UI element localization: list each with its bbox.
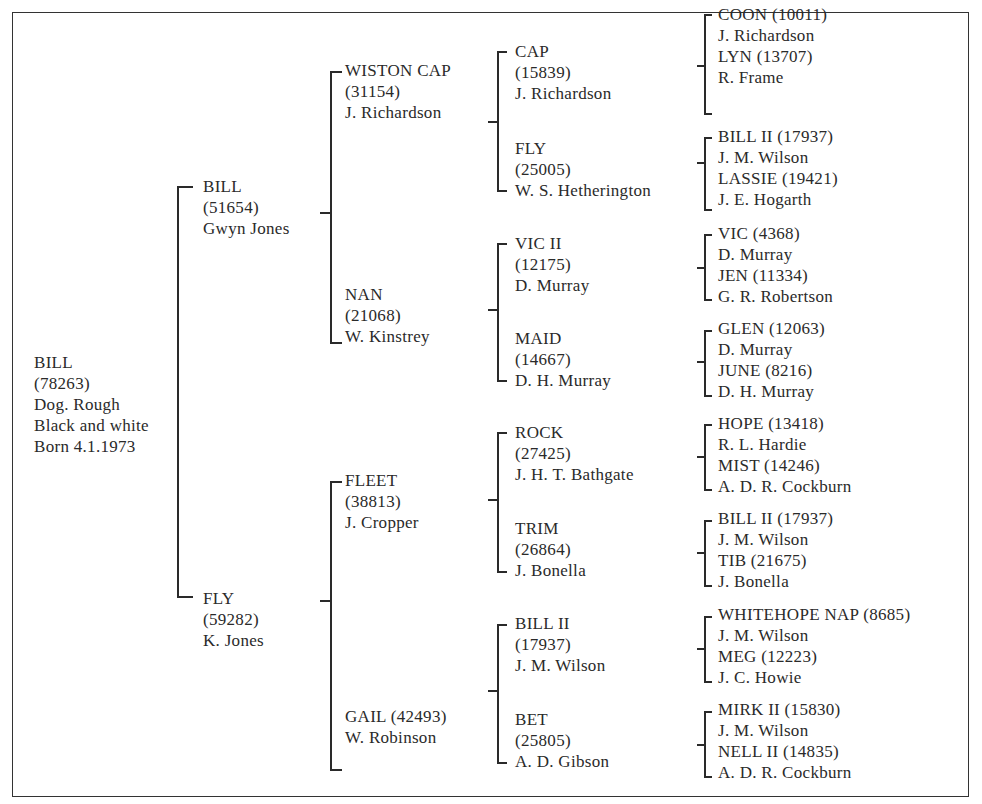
bracket-gen4 xyxy=(704,616,706,682)
gen3-name: WISTON CAP xyxy=(345,60,451,81)
gen4-owner: J. H. T. Bathgate xyxy=(515,464,634,485)
gen4-owner: J. M. Wilson xyxy=(515,655,605,676)
bracket-gen4-top xyxy=(704,137,712,139)
gen5-pair: GLEN (12063) D. Murray JUNE (8216) D. H.… xyxy=(718,318,825,402)
gen5-sire: GLEN (12063) xyxy=(718,318,825,339)
gen4-reg: (12175) xyxy=(515,254,589,275)
bracket-gen4-top xyxy=(704,14,712,16)
bracket-gen4-bottom xyxy=(704,113,712,115)
bracket-gen3-top xyxy=(497,243,507,245)
bracket-sire-stub xyxy=(320,212,330,214)
bracket-gen4 xyxy=(704,234,706,300)
gen5-sire-owner: D. Murray xyxy=(718,244,833,265)
bracket-gen4-top xyxy=(704,520,712,522)
gen3-name: GAIL (42493) xyxy=(345,706,447,727)
gen3-owner: W. Kinstrey xyxy=(345,326,430,347)
gen5-sire-owner: D. Murray xyxy=(718,339,825,360)
subject-sex-coat: Dog. Rough xyxy=(34,394,149,415)
gen4-node: BET (25805) A. D. Gibson xyxy=(515,709,609,772)
bracket-dam xyxy=(330,481,332,770)
sire: BILL (51654) Gwyn Jones xyxy=(203,176,290,239)
bracket-gen4-bottom xyxy=(704,299,712,301)
gen5-sire: HOPE (13418) xyxy=(718,413,852,434)
gen5-sire-owner: J. M. Wilson xyxy=(718,529,833,550)
gen4-node: ROCK (27425) J. H. T. Bathgate xyxy=(515,422,634,485)
gen4-reg: (25805) xyxy=(515,730,609,751)
gen5-pair: BILL II (17937) J. M. Wilson LASSIE (194… xyxy=(718,126,838,210)
gen4-name: BET xyxy=(515,709,609,730)
gen5-dam: TIB (21675) xyxy=(718,550,833,571)
gen5-sire-owner: J. Richardson xyxy=(718,25,827,46)
bracket-dam-stub xyxy=(320,600,330,602)
bracket-gen3 xyxy=(497,432,499,572)
gen4-node: VIC II (12175) D. Murray xyxy=(515,233,589,296)
bracket-gen4-bottom xyxy=(704,489,712,491)
gen4-owner: J. Richardson xyxy=(515,83,611,104)
gen3-node: GAIL (42493) W. Robinson xyxy=(345,706,447,748)
subject-reg: (78263) xyxy=(34,373,149,394)
sire-reg: (51654) xyxy=(203,197,290,218)
bracket-sire-top xyxy=(330,71,342,73)
bracket-gen4-top xyxy=(704,616,712,618)
gen3-owner: W. Robinson xyxy=(345,727,447,748)
gen4-name: ROCK xyxy=(515,422,634,443)
bracket-gen4 xyxy=(704,711,706,777)
bracket-sire-bottom xyxy=(330,342,342,344)
gen4-node: FLY (25005) W. S. Hetherington xyxy=(515,138,651,201)
gen3-node: FLEET (38813) J. Cropper xyxy=(345,470,419,533)
gen3-reg: (21068) xyxy=(345,305,430,326)
sire-owner: Gwyn Jones xyxy=(203,218,290,239)
bracket-gen3-top xyxy=(497,51,507,53)
gen5-dam-owner: R. Frame xyxy=(718,67,827,88)
gen3-owner: J. Richardson xyxy=(345,102,451,123)
gen5-sire-owner: J. M. Wilson xyxy=(718,147,838,168)
bracket-gen4-bottom xyxy=(704,395,712,397)
gen4-owner: J. Bonella xyxy=(515,560,586,581)
gen5-sire-owner: R. L. Hardie xyxy=(718,434,852,455)
bracket-gen4 xyxy=(704,330,706,396)
bracket-gen3 xyxy=(497,243,499,381)
gen4-name: FLY xyxy=(515,138,651,159)
gen4-node: CAP (15839) J. Richardson xyxy=(515,41,611,104)
dam-reg: (59282) xyxy=(203,609,264,630)
bracket-gen1-bottom xyxy=(177,596,193,598)
gen5-dam-owner: A. D. R. Cockburn xyxy=(718,762,852,783)
bracket-gen4-bottom xyxy=(704,209,712,211)
gen4-node: BILL II (17937) J. M. Wilson xyxy=(515,613,605,676)
gen4-reg: (15839) xyxy=(515,62,611,83)
gen5-pair: BILL II (17937) J. M. Wilson TIB (21675)… xyxy=(718,508,833,592)
gen3-reg: (31154) xyxy=(345,81,451,102)
subject-birth: Born 4.1.1973 xyxy=(34,436,149,457)
gen4-reg: (14667) xyxy=(515,349,611,370)
bracket-gen3-top xyxy=(497,624,507,626)
bracket-gen1-top xyxy=(177,186,193,188)
gen5-dam-owner: A. D. R. Cockburn xyxy=(718,476,852,497)
subject-color: Black and white xyxy=(34,415,149,436)
bracket-gen3 xyxy=(497,51,499,191)
gen4-reg: (25005) xyxy=(515,159,651,180)
gen5-dam-owner: D. H. Murray xyxy=(718,381,825,402)
gen5-pair: COON (10011) J. Richardson LYN (13707) R… xyxy=(718,4,827,88)
gen4-owner: W. S. Hetherington xyxy=(515,180,651,201)
bracket-gen4-bottom xyxy=(704,776,712,778)
gen5-dam-owner: J. C. Howie xyxy=(718,667,910,688)
gen5-dam: NELL II (14835) xyxy=(718,741,852,762)
gen3-reg: (38813) xyxy=(345,491,419,512)
gen5-dam: JEN (11334) xyxy=(718,265,833,286)
bracket-gen4-top xyxy=(704,711,712,713)
dam-owner: K. Jones xyxy=(203,630,264,651)
dam-name: FLY xyxy=(203,588,264,609)
gen4-name: BILL II xyxy=(515,613,605,634)
gen4-name: MAID xyxy=(515,328,611,349)
dam: FLY (59282) K. Jones xyxy=(203,588,264,651)
gen5-dam-owner: J. Bonella xyxy=(718,571,833,592)
sire-name: BILL xyxy=(203,176,290,197)
gen5-sire: WHITEHOPE NAP (8685) xyxy=(718,604,910,625)
bracket-gen4 xyxy=(704,520,706,586)
subject-dog: BILL (78263) Dog. Rough Black and white … xyxy=(34,352,149,457)
gen3-name: NAN xyxy=(345,284,430,305)
gen4-owner: D. Murray xyxy=(515,275,589,296)
bracket-gen4-top xyxy=(704,424,712,426)
bracket-dam-top xyxy=(330,481,342,483)
bracket-gen4-top xyxy=(704,330,712,332)
